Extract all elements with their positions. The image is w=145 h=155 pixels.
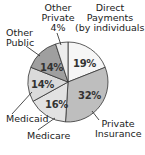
label-other-public: Other Public (6, 28, 36, 48)
pct-medicare: 16% (45, 99, 68, 110)
pct-medicaid: 14% (31, 79, 54, 90)
pct-direct-payments: 19% (73, 58, 96, 69)
label-other-private-pct: 4% (40, 23, 76, 33)
label-direct-line3: (by individuals) (75, 23, 145, 33)
label-other-private: Other Private 4% (40, 3, 76, 33)
pct-private-insurance: 32% (78, 90, 101, 101)
label-other-public-line2: Public (6, 38, 36, 48)
label-medicare: Medicare (27, 131, 70, 141)
pct-other-public: 14% (40, 62, 63, 73)
label-private-insurance: Private Insurance (95, 119, 141, 139)
label-private-insurance-line2: Insurance (95, 129, 141, 139)
pie-chart: 19% 32% 16% 14% 14% Other Private 4% Dir… (0, 0, 145, 155)
label-medicaid: Medicaid (6, 114, 48, 124)
label-direct-payments: Direct Payments (by individuals) (75, 3, 145, 33)
leader-medicaid (12, 92, 32, 114)
